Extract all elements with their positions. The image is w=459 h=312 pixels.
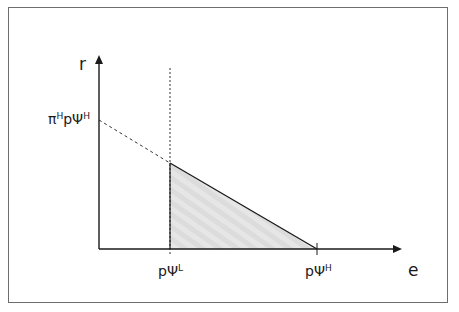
y-axis-arrow-icon	[95, 55, 103, 64]
x-axis-arrow-icon	[393, 245, 402, 253]
diagram-canvas	[0, 0, 459, 312]
x-tick-low-main: pΨ	[158, 263, 178, 279]
x-axis-label: e	[408, 262, 418, 279]
x-tick-low-sup: L	[178, 263, 183, 273]
dashed-slope-line	[99, 120, 170, 163]
x-tick-high-main: pΨ	[305, 263, 325, 279]
x-tick-label-high: pΨH	[305, 264, 332, 278]
y-intercept-label: πHpΨH	[48, 112, 90, 126]
y-intercept-sup2: H	[83, 111, 90, 121]
y-axis-label: r	[79, 56, 86, 73]
x-tick-label-low: pΨL	[158, 264, 183, 278]
y-intercept-mid: pΨ	[63, 111, 83, 127]
x-tick-high-sup: H	[325, 263, 332, 273]
